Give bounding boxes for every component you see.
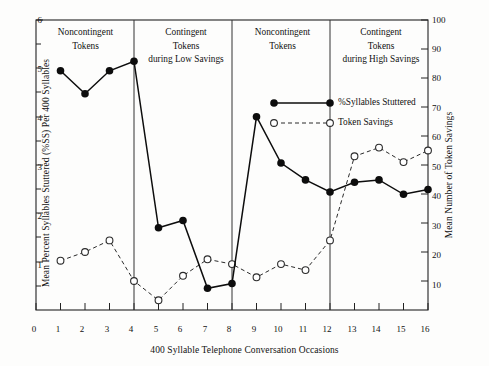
figure-canvas: Mean Percent Syllables Stuttered (%SS) P… <box>0 0 489 366</box>
legend-swatch-token-savings <box>271 120 334 127</box>
plot-area <box>0 0 489 366</box>
y-axis-left-ticks <box>36 20 43 286</box>
series-percent-syllables-stuttered <box>57 57 432 292</box>
series-token-savings <box>57 144 431 303</box>
legend-swatch-syllables-stuttered <box>270 99 334 107</box>
